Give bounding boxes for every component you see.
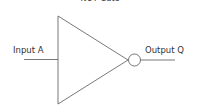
inversion-bubble-icon — [129, 54, 141, 66]
input-label: Input A — [13, 45, 44, 55]
not-gate-diagram: NOT Gate Input A Output Q — [0, 0, 199, 112]
output-label: Output Q — [145, 45, 184, 55]
buffer-triangle-icon — [58, 16, 128, 104]
diagram-title: NOT Gate — [81, 0, 120, 3]
